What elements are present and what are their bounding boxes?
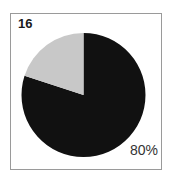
panel-number-label: 16	[18, 17, 32, 31]
pie-slices	[22, 33, 146, 157]
dark-slice-percent-label: 80%	[130, 143, 158, 158]
